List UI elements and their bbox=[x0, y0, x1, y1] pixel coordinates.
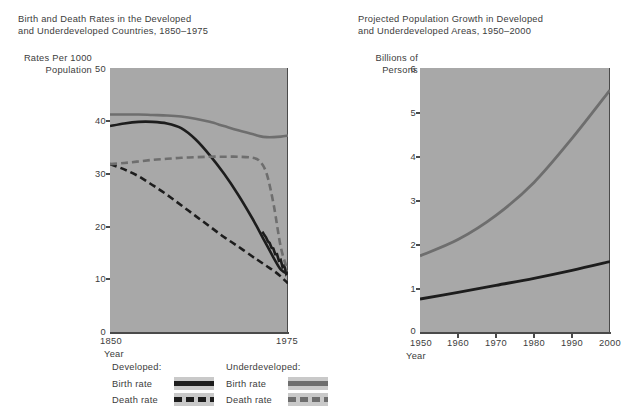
right-chart-panel: Projected Population Growth in Developed… bbox=[338, 0, 642, 414]
series-line-noise bbox=[262, 232, 288, 274]
left-plot-area bbox=[110, 68, 288, 332]
right-plot-lines bbox=[420, 68, 610, 332]
right-ytick-4: 4 bbox=[394, 152, 416, 162]
left-ytick-20: 20 bbox=[84, 222, 106, 232]
legend-swatch-developed-death bbox=[174, 393, 214, 406]
right-x-axis-line bbox=[420, 332, 611, 334]
right-plot-area bbox=[420, 68, 610, 332]
left-x-axis-line bbox=[110, 332, 289, 334]
legend-item-developed-birth: Birth rate bbox=[112, 377, 214, 390]
right-ytick-5: 5 bbox=[394, 108, 416, 118]
left-ytick-30: 30 bbox=[84, 169, 106, 179]
legend-label-developed-birth: Birth rate bbox=[112, 379, 174, 389]
left-ytick-40: 40 bbox=[84, 116, 106, 126]
right-ytick-6: 6 bbox=[394, 64, 416, 74]
series-line bbox=[420, 90, 610, 256]
right-ytick-1: 1 bbox=[394, 284, 416, 294]
legend-item-underdeveloped-death: Death rate bbox=[226, 393, 328, 406]
right-xtick-2000: 2000 bbox=[595, 338, 625, 348]
left-xtick-1975: 1975 bbox=[272, 336, 302, 346]
series-line bbox=[110, 164, 288, 283]
right-xtick-1950: 1950 bbox=[406, 338, 436, 348]
figure-root: Birth and Death Rates in the Developed a… bbox=[0, 0, 642, 414]
right-xtick-1980: 1980 bbox=[519, 338, 549, 348]
left-ytick-10: 10 bbox=[84, 274, 106, 284]
legend-group-underdeveloped: Underdeveloped: Birth rate Death rate bbox=[226, 362, 328, 409]
series-line bbox=[420, 262, 610, 299]
legend-label-developed-death: Death rate bbox=[112, 395, 174, 405]
legend-label-underdeveloped-death: Death rate bbox=[226, 395, 288, 405]
right-xtick-1970: 1970 bbox=[481, 338, 511, 348]
legend-item-developed-death: Death rate bbox=[112, 393, 214, 406]
left-xtick-1850: 1850 bbox=[96, 336, 126, 346]
right-xtick-1960: 1960 bbox=[443, 338, 473, 348]
legend-heading-developed: Developed: bbox=[112, 362, 214, 372]
series-line bbox=[110, 122, 288, 274]
left-chart-panel: Birth and Death Rates in the Developed a… bbox=[0, 0, 350, 414]
legend-label-underdeveloped-birth: Birth rate bbox=[226, 379, 288, 389]
right-x-axis-label: Year bbox=[406, 351, 426, 361]
legend-heading-underdeveloped: Underdeveloped: bbox=[226, 362, 328, 372]
left-y-axis-label: Rates Per 1000 Population bbox=[6, 52, 92, 76]
right-ytick-0: 0 bbox=[394, 326, 416, 336]
left-ytick-50: 50 bbox=[84, 64, 106, 74]
legend-group-developed: Developed: Birth rate Death rate bbox=[112, 362, 214, 409]
legend-swatch-developed-birth bbox=[174, 377, 214, 390]
left-chart-title: Birth and Death Rates in the Developed a… bbox=[18, 13, 308, 38]
right-chart-title: Projected Population Growth in Developed… bbox=[358, 13, 638, 38]
legend-swatch-underdeveloped-death bbox=[288, 393, 328, 406]
right-ytick-3: 3 bbox=[394, 196, 416, 206]
left-x-axis-label: Year bbox=[104, 349, 124, 359]
legend-item-underdeveloped-birth: Birth rate bbox=[226, 377, 328, 390]
legend-swatch-underdeveloped-birth bbox=[288, 377, 328, 390]
series-line bbox=[110, 114, 288, 137]
left-plot-lines bbox=[110, 68, 288, 332]
right-ytick-2: 2 bbox=[394, 240, 416, 250]
right-xtick-1990: 1990 bbox=[557, 338, 587, 348]
